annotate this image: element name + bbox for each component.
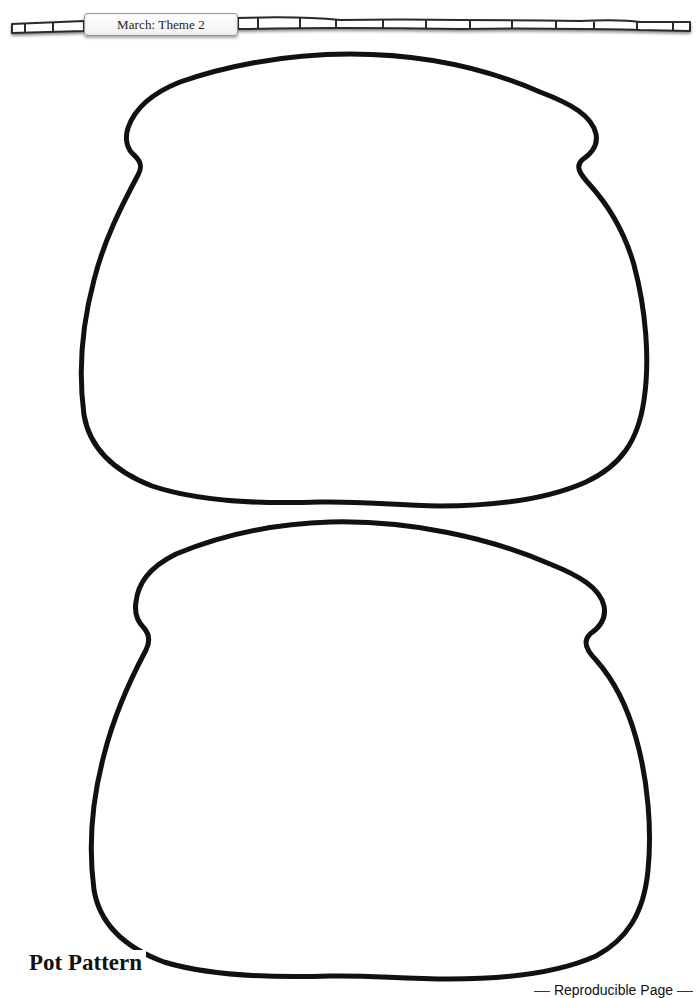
footer-note: Reproducible Page — [530, 982, 697, 998]
footer-note-text: Reproducible Page — [554, 982, 673, 998]
header-tab: March: Theme 2 — [84, 13, 238, 36]
dash-divider — [534, 991, 550, 992]
header-banner: March: Theme 2 — [0, 0, 697, 45]
header-label: March: Theme 2 — [117, 17, 205, 33]
pot-outline-top — [60, 40, 680, 520]
pot-outline-bottom — [60, 510, 680, 990]
pot-icon — [60, 510, 680, 990]
page-title: Pot Pattern — [29, 950, 146, 976]
pot-icon — [60, 40, 680, 520]
dash-divider — [677, 991, 693, 992]
